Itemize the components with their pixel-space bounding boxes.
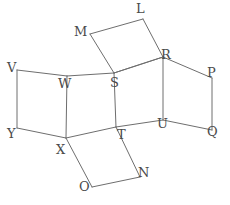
edge-T-X	[66, 127, 116, 138]
edge-S-R-shared	[114, 57, 163, 73]
edge-S-M	[90, 34, 114, 73]
edge-X-O	[66, 138, 92, 187]
edge-O-N	[92, 177, 140, 187]
edge-layer	[17, 19, 212, 187]
edge-W-S	[67, 73, 114, 76]
fused-quadrilateral-diagram	[0, 0, 230, 205]
diagram-canvas: LMVWSRPYXTUQNO	[0, 0, 230, 205]
edge-R-P	[163, 57, 212, 78]
edge-W-X	[66, 76, 67, 138]
edge-U-T	[116, 120, 163, 127]
edge-S-T	[114, 73, 116, 127]
edge-N-T	[116, 127, 140, 177]
edge-V-W	[17, 70, 67, 76]
edge-L-R	[143, 19, 163, 57]
edge-Q-U	[163, 120, 212, 130]
edge-M-L	[90, 19, 143, 34]
edge-X-Y	[17, 128, 66, 138]
